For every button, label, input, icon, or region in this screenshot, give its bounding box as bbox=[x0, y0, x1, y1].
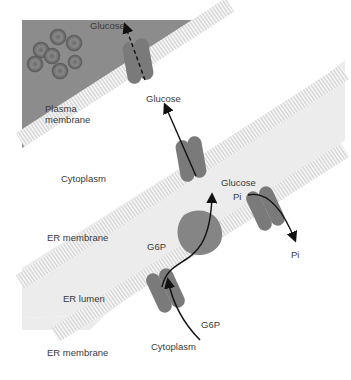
label-plasma-membrane: Plasma membrane bbox=[45, 104, 90, 126]
label-cytoplasm-upper: Cytoplasm bbox=[61, 174, 106, 185]
label-glucose-out: Glucose bbox=[90, 21, 125, 32]
enzyme bbox=[178, 210, 223, 255]
label-er-membrane-lower: ER membrane bbox=[47, 348, 108, 359]
label-cytoplasm-lower: Cytoplasm bbox=[151, 342, 196, 353]
label-er-lumen: ER lumen bbox=[63, 294, 105, 305]
label-er-membrane-upper: ER membrane bbox=[47, 233, 108, 244]
label-glucose-er: Glucose bbox=[221, 178, 256, 189]
diagram-canvas bbox=[0, 0, 351, 380]
label-g6p-lumen: G6P bbox=[147, 242, 166, 253]
label-pi-out: Pi bbox=[291, 250, 299, 261]
label-pi-in: Pi bbox=[233, 192, 241, 203]
label-g6p-cyto: G6P bbox=[201, 320, 220, 331]
label-glucose-plasma-in: Glucose bbox=[146, 94, 181, 105]
